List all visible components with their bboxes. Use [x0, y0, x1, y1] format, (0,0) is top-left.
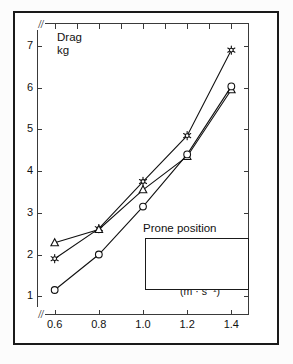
series-line — [55, 50, 232, 259]
data-point — [51, 255, 58, 263]
data-point — [139, 186, 147, 193]
data-point — [184, 151, 191, 158]
data-point — [228, 46, 235, 54]
series-line — [55, 90, 232, 243]
plot-svg — [0, 0, 293, 364]
data-point — [140, 203, 147, 210]
series-triangle — [51, 86, 235, 246]
data-point — [228, 83, 235, 90]
series-star — [51, 46, 235, 263]
data-point — [51, 287, 58, 294]
figure-container: // // 1234567 0.60.81.01.21.4 Drag kg Ve… — [0, 0, 293, 364]
data-point — [95, 251, 102, 258]
